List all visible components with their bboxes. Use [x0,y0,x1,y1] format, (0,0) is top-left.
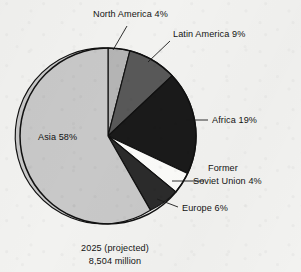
leader-line-latin-america [148,41,170,62]
pie-chart-figure: North America 4% Latin America 9% Africa… [0,0,301,272]
slice-label-north-america: North America 4% [93,9,168,19]
pie-chart-canvas: North America 4% Latin America 9% Africa… [0,0,301,272]
leader-line-north-america [113,26,127,50]
slice-label-europe: Europe 6% [182,203,228,213]
slice-label-africa: Africa 19% [212,115,257,125]
slice-label-former-soviet-union-line1: Former [208,163,238,173]
slice-label-asia: Asia 58% [38,132,77,142]
slice-label-former-soviet-union-line2: Soviet Union 4% [193,176,262,186]
chart-caption-year: 2025 (projected) [81,243,149,253]
slice-label-latin-america: Latin America 9% [173,29,245,39]
chart-caption-total: 8,504 million [89,256,141,266]
